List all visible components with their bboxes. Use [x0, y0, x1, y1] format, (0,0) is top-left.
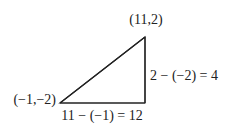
horizontal-side-label: 11 − (−1) = 12 [61, 108, 143, 124]
triangle-diagram: (11,2) (−1,−2) 2 − (−2) = 4 11 − (−1) = … [0, 0, 227, 130]
hypotenuse [60, 37, 145, 103]
vertical-side-label: 2 − (−2) = 4 [150, 68, 218, 84]
vertex-label-bottom-left: (−1,−2) [13, 92, 56, 108]
vertex-label-top-right: (11,2) [129, 12, 163, 28]
